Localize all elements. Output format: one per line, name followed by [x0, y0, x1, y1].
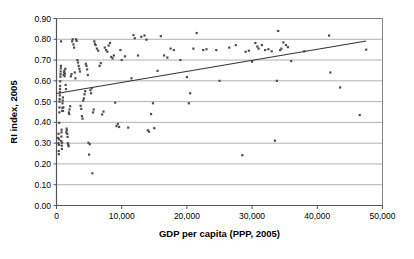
data-point	[127, 126, 129, 128]
y-tick-label: 0.70	[34, 55, 51, 65]
data-point	[85, 65, 87, 67]
data-point	[64, 68, 66, 70]
data-point	[60, 129, 62, 131]
y-axis-title: RI index, 2005	[8, 80, 19, 144]
data-point	[64, 75, 66, 77]
data-point	[90, 92, 92, 94]
data-point	[89, 143, 91, 145]
data-point	[114, 102, 116, 104]
y-tick-label: 0.00	[34, 201, 51, 211]
data-point	[108, 44, 110, 46]
data-point	[62, 110, 64, 112]
data-point	[84, 90, 86, 92]
data-point	[264, 49, 266, 51]
data-point	[258, 48, 260, 50]
data-point	[152, 102, 154, 104]
data-point	[215, 49, 217, 51]
data-point	[70, 75, 72, 77]
data-point	[74, 71, 76, 73]
data-point	[60, 40, 62, 42]
data-point	[196, 32, 198, 34]
data-point	[156, 70, 158, 72]
y-tick-label: 0.30	[34, 138, 51, 148]
data-point	[78, 68, 80, 70]
data-point	[76, 40, 78, 42]
data-point	[65, 84, 67, 86]
y-tick-label: 0.80	[34, 34, 51, 44]
data-point	[66, 129, 68, 131]
data-point	[104, 46, 106, 48]
data-point	[64, 72, 66, 74]
y-tick-label: 0.60	[34, 76, 51, 86]
data-point	[119, 49, 121, 51]
data-point	[148, 131, 150, 133]
data-point	[92, 111, 94, 113]
data-point	[80, 108, 82, 110]
data-point	[80, 105, 82, 107]
y-tick-label: 0.90	[34, 14, 51, 24]
data-point	[267, 48, 269, 50]
scatter-plot: 0.000.100.200.300.400.500.600.700.800.90…	[0, 0, 414, 259]
data-point	[115, 125, 117, 127]
data-point	[59, 88, 61, 90]
data-point	[137, 54, 139, 56]
data-point	[285, 44, 287, 46]
data-point	[58, 122, 60, 124]
data-point	[69, 105, 71, 107]
data-point	[235, 44, 237, 46]
data-point	[59, 76, 61, 78]
data-point	[61, 145, 63, 147]
y-tick-label: 0.20	[34, 159, 51, 169]
data-point	[81, 115, 83, 117]
data-point	[109, 42, 111, 44]
data-point	[66, 136, 68, 138]
data-point	[58, 101, 60, 103]
data-point	[271, 50, 273, 52]
data-point	[67, 145, 69, 147]
data-point	[98, 65, 100, 67]
data-point	[145, 39, 147, 41]
data-point	[173, 49, 175, 51]
data-point	[59, 94, 61, 96]
data-point	[153, 127, 155, 129]
y-tick-label: 0.10	[34, 180, 51, 190]
x-tick-label: 0	[54, 211, 59, 221]
data-point	[83, 93, 85, 95]
data-point	[59, 73, 61, 75]
data-point	[359, 114, 361, 116]
data-point	[60, 67, 62, 69]
data-point	[241, 154, 243, 156]
data-point	[124, 55, 126, 57]
data-point	[83, 97, 85, 99]
data-point	[72, 38, 74, 40]
x-axis-title: GDP per capita (PPP, 2005)	[159, 228, 280, 239]
data-point	[329, 71, 331, 73]
data-point	[228, 46, 230, 48]
data-point	[60, 135, 62, 137]
data-point	[58, 144, 60, 146]
data-point	[101, 113, 103, 115]
x-tick-label: 40,000	[304, 211, 330, 221]
data-point	[276, 80, 278, 82]
data-point	[95, 44, 97, 46]
data-point	[117, 123, 119, 125]
data-point	[77, 61, 79, 63]
data-point	[70, 73, 72, 75]
data-point	[58, 111, 60, 113]
data-point	[68, 113, 70, 115]
data-point	[58, 150, 60, 152]
data-points	[57, 30, 367, 175]
trend-line	[57, 41, 367, 94]
data-point	[76, 59, 78, 61]
data-point	[93, 40, 95, 42]
data-point	[280, 48, 282, 50]
data-point	[82, 99, 84, 101]
gridlines	[57, 19, 383, 185]
data-point	[60, 65, 62, 67]
data-point	[61, 102, 63, 104]
data-point	[248, 50, 250, 52]
y-tick-label: 0.40	[34, 117, 51, 127]
data-point	[87, 74, 89, 76]
data-point	[256, 45, 258, 47]
x-tick-label: 30,000	[239, 211, 265, 221]
